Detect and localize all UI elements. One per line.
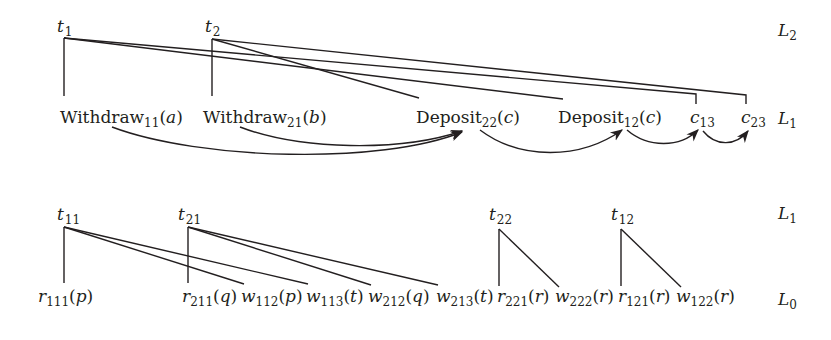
svg-text:r221(r): r221(r) (497, 286, 549, 309)
node-r211: r211(q) (182, 286, 237, 309)
svg-text:Deposit12(c): Deposit12(c) (558, 107, 662, 130)
node-w222: w222(r) (555, 286, 614, 309)
node-w122: w122(r) (676, 286, 735, 309)
svg-text:L1: L1 (777, 203, 797, 226)
svg-text:t11: t11 (57, 204, 80, 227)
node-w213: w213(t) (436, 286, 494, 309)
node-t2: t2 (205, 16, 220, 39)
svg-text:L1: L1 (777, 108, 797, 131)
svg-text:r121(r): r121(r) (618, 286, 670, 309)
bottom-tree-edges (64, 227, 681, 287)
node-deposit22: Deposit22(c) (416, 107, 520, 130)
svg-text:c13: c13 (690, 107, 715, 130)
level-label-L1-bottom: L1 (777, 203, 797, 226)
svg-text:w113(t): w113(t) (306, 286, 364, 309)
svg-text:w112(p): w112(p) (241, 286, 303, 309)
arrow-withdraw11-deposit22 (112, 127, 462, 154)
svg-text:Withdraw21(b): Withdraw21(b) (203, 107, 327, 130)
svg-text:c23: c23 (741, 107, 766, 130)
svg-text:w212(q): w212(q) (368, 286, 430, 309)
level-label-L0-bottom: L0 (777, 289, 797, 312)
node-r111: r111(p) (38, 286, 93, 309)
arrow-c13-c23 (703, 131, 748, 143)
edge-t11-w113 (64, 227, 308, 284)
node-deposit12: Deposit12(c) (558, 107, 662, 130)
node-t11: t11 (57, 204, 80, 227)
top-order-arrows (112, 127, 748, 154)
node-withdraw21: Withdraw21(b) (203, 107, 327, 130)
svg-text:Deposit22(c): Deposit22(c) (416, 107, 520, 130)
arrow-deposit12-c13 (627, 130, 698, 144)
edge-t21-w213 (188, 227, 438, 285)
svg-text:t21: t21 (178, 204, 201, 227)
transaction-tree-diagram: t1 t2 Withdraw11(a) Withdraw21(b) Deposi… (0, 0, 831, 340)
svg-text:w122(r): w122(r) (676, 286, 735, 309)
node-t21: t21 (178, 204, 201, 227)
node-withdraw11: Withdraw11(a) (60, 107, 183, 130)
level-label-L2-top: L2 (777, 20, 797, 43)
node-t22: t22 (489, 204, 512, 227)
node-c13: c13 (690, 107, 715, 130)
edge-t1-c13 (64, 38, 696, 104)
svg-text:L2: L2 (777, 20, 797, 43)
node-r221: r221(r) (497, 286, 549, 309)
svg-text:t1: t1 (57, 16, 72, 39)
svg-text:t12: t12 (611, 204, 634, 227)
edge-t2-c23 (212, 39, 746, 104)
node-w112: w112(p) (241, 286, 303, 309)
svg-text:t2: t2 (205, 16, 220, 39)
node-w212: w212(q) (368, 286, 430, 309)
svg-text:L0: L0 (777, 289, 797, 312)
node-t1: t1 (57, 16, 72, 39)
edge-t12-w122 (621, 229, 681, 287)
node-r121: r121(r) (618, 286, 670, 309)
node-w113: w113(t) (306, 286, 364, 309)
top-tree-edges (64, 38, 746, 104)
svg-text:r211(q): r211(q) (182, 286, 237, 309)
edge-t21-w212 (188, 227, 371, 285)
node-t12: t12 (611, 204, 634, 227)
svg-text:t22: t22 (489, 204, 512, 227)
edge-t22-w222 (499, 229, 559, 287)
svg-text:w222(r): w222(r) (555, 286, 614, 309)
svg-text:r111(p): r111(p) (38, 286, 93, 309)
svg-text:w213(t): w213(t) (436, 286, 494, 309)
arrow-deposit22-deposit12 (480, 130, 622, 153)
level-label-L1-top: L1 (777, 108, 797, 131)
edge-t2-deposit22 (212, 39, 419, 98)
node-c23: c23 (741, 107, 766, 130)
svg-text:Withdraw11(a): Withdraw11(a) (60, 107, 183, 130)
